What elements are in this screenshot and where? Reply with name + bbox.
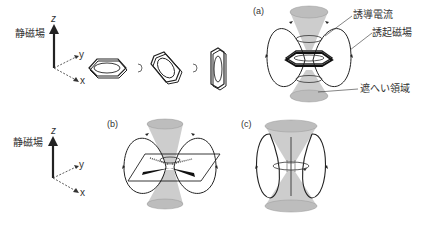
panel-c-label: (c): [241, 120, 252, 129]
x-axis-label-top: x: [80, 76, 85, 86]
panel-b-diagram: [122, 119, 220, 209]
axes-bottom: [48, 136, 79, 193]
y-axis-label-bottom: y: [79, 160, 84, 170]
static-field-label-bottom: 静磁場: [13, 138, 43, 148]
shielding-region-label: 遮へい領域: [360, 84, 410, 94]
induced-field-label: 誘起磁場: [372, 28, 412, 38]
static-field-label-top: 静磁場: [15, 29, 45, 39]
diagram-canvas: [0, 0, 433, 228]
panel-a-diagram: [265, 6, 372, 102]
panel-c-diagram: [255, 120, 328, 212]
z-axis-label-bottom: z: [51, 126, 56, 136]
x-axis-label-bottom: x: [80, 188, 85, 198]
z-arrow-icon: [49, 24, 59, 34]
panel-a-label: (a): [253, 7, 264, 16]
benzene-vertical: [211, 48, 226, 90]
panel-b-label: (b): [107, 120, 118, 129]
rotation-arrow-icon-2: [193, 64, 197, 72]
benzene-tilted: [151, 52, 182, 84]
induced-current-label: 誘導電流: [353, 10, 393, 20]
z-axis-label-top: z: [51, 14, 56, 24]
benzene-flat: [89, 59, 127, 78]
rotation-arrow-icon: [138, 64, 142, 72]
y-axis-label-top: y: [79, 50, 84, 60]
axes-top: [49, 24, 79, 82]
